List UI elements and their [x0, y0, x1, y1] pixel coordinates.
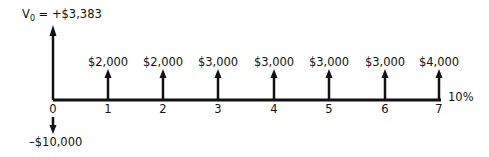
cash-flow-label-3: $3,000: [198, 57, 238, 69]
period-label-6: 6: [381, 104, 388, 116]
cash-flow-label-6: $3,000: [365, 57, 405, 69]
cash-flow-arrow-icon-4: [271, 69, 278, 99]
present-value-arrow-icon: [50, 25, 57, 100]
cash-flow-label-7: $4,000: [419, 57, 459, 69]
cash-flow-label-5: $3,000: [309, 57, 349, 69]
cash-flow-arrow-icon-5: [326, 69, 333, 99]
cash-flow-arrow-icon-3: [215, 69, 222, 99]
initial-outflow-arrow-icon: [50, 117, 57, 134]
period-label-4: 4: [270, 104, 277, 116]
period-label-0: 0: [49, 104, 56, 116]
present-value-amount: +$3,383: [52, 7, 102, 21]
present-value-equals: =: [35, 7, 52, 21]
initial-outflow-label: –$10,000: [29, 137, 82, 149]
cash-flow-arrow-icon-6: [382, 69, 389, 99]
cash-flow-arrow-icon-2: [160, 69, 167, 99]
diagram-graphics: [0, 0, 489, 157]
interest-rate-label: 10%: [448, 92, 474, 104]
period-label-2: 2: [159, 104, 166, 116]
period-label-3: 3: [214, 104, 221, 116]
present-value-label: V0 = +$3,383: [22, 9, 102, 23]
cash-flow-label-4: $3,000: [254, 57, 294, 69]
period-label-1: 1: [104, 104, 111, 116]
period-label-5: 5: [325, 104, 332, 116]
present-value-symbol: V: [22, 7, 30, 21]
cash-flow-arrow-icon-1: [105, 69, 112, 99]
cash-flow-label-1: $2,000: [88, 57, 128, 69]
cash-flow-label-2: $2,000: [143, 57, 183, 69]
period-label-7: 7: [435, 104, 442, 116]
cash-flow-diagram: V0 = +$3,383 $2,000 $2,000 $3,000 $3,000…: [0, 0, 489, 157]
cash-flow-arrow-icon-7: [436, 69, 443, 99]
